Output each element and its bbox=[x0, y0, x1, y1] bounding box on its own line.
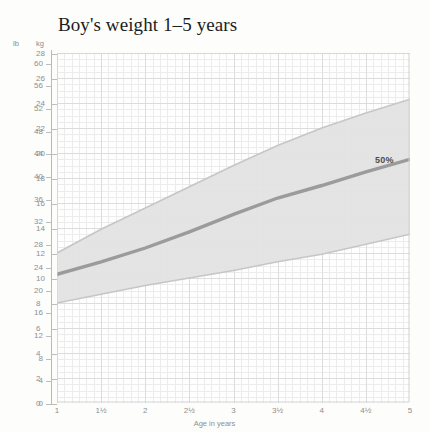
y-ticklabel-kg: 10 bbox=[36, 274, 45, 283]
y-tick-lb bbox=[46, 86, 52, 87]
y-ticklabel-kg: 4 bbox=[36, 349, 40, 358]
y-ticklabel-kg: 24 bbox=[36, 99, 45, 108]
chart-canvas bbox=[57, 53, 410, 403]
y-tick-lb bbox=[46, 132, 52, 133]
y-tick-lb bbox=[46, 268, 52, 269]
y-tick-lb bbox=[46, 64, 52, 65]
y-tick-lb bbox=[46, 200, 52, 201]
x-axis-title: Age in years bbox=[0, 419, 429, 428]
x-ticklabel: 2 bbox=[130, 406, 160, 415]
y-ticklabel-kg: 0 bbox=[36, 399, 40, 408]
percentile-annotation-50: 50% bbox=[375, 155, 394, 165]
y-ticklabel-kg: 20 bbox=[36, 149, 45, 158]
y-ticklabel-lb: 24 bbox=[19, 263, 43, 272]
y-tick-lb bbox=[46, 381, 52, 382]
y-ticklabel-lb: 28 bbox=[19, 240, 43, 249]
y-ticklabel-lb: 16 bbox=[19, 308, 43, 317]
y-ticklabel-kg: 18 bbox=[36, 174, 45, 183]
y-tick-lb bbox=[46, 313, 52, 314]
x-ticklabel: 4½ bbox=[351, 406, 381, 415]
plot-area bbox=[57, 53, 410, 403]
y-ticklabel-lb: 60 bbox=[19, 59, 43, 68]
x-ticklabel: 1½ bbox=[86, 406, 116, 415]
y-ticklabel-kg: 16 bbox=[36, 199, 45, 208]
x-ticklabel: 2½ bbox=[174, 406, 204, 415]
y-tick-lb bbox=[46, 359, 52, 360]
y-tick-lb bbox=[46, 222, 52, 223]
growth-chart: Boy's weight 1–5 years lb kg 04812162024… bbox=[0, 0, 429, 432]
y-ticklabel-kg: 12 bbox=[36, 249, 45, 258]
y-tick-lb bbox=[46, 336, 52, 337]
x-ticklabel: 5 bbox=[395, 406, 425, 415]
y-tick-lb bbox=[46, 109, 52, 110]
axis-unit-lb: lb bbox=[13, 39, 19, 48]
y-ticklabel-kg: 6 bbox=[36, 324, 40, 333]
y-ticklabel-kg: 26 bbox=[36, 74, 45, 83]
x-ticklabel: 1 bbox=[42, 406, 72, 415]
y-ticklabel-kg: 22 bbox=[36, 124, 45, 133]
x-ticklabel: 3 bbox=[219, 406, 249, 415]
page-title: Boy's weight 1–5 years bbox=[58, 14, 237, 36]
y-ticklabel-kg: 14 bbox=[36, 224, 45, 233]
y-tick-kg bbox=[51, 404, 57, 405]
y-ticklabel-kg: 28 bbox=[36, 49, 45, 58]
y-ticklabel-kg: 2 bbox=[36, 374, 40, 383]
y-ticklabel-kg: 8 bbox=[36, 299, 40, 308]
x-ticklabel: 3½ bbox=[263, 406, 293, 415]
y-ticklabel-lb: 20 bbox=[19, 286, 43, 295]
y-tick-lb bbox=[46, 291, 52, 292]
x-ticklabel: 4 bbox=[307, 406, 337, 415]
axis-unit-kg: kg bbox=[36, 39, 44, 48]
y-tick-lb bbox=[46, 177, 52, 178]
y-tick-lb bbox=[46, 245, 52, 246]
